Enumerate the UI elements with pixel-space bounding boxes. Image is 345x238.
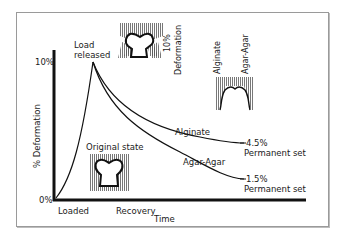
agar-agar-permanent-value: 1.5%	[246, 174, 268, 184]
y-tick-0: 0%	[39, 195, 53, 205]
agar-agar-curve-label: Agar-Agar	[183, 157, 225, 167]
y-tick-10: 10%	[35, 57, 54, 67]
deformed-tooth-impression-icon	[118, 23, 163, 58]
agar-agar-permanent-label: Permanent set	[244, 184, 306, 194]
x-phase-recovery: Recovery	[116, 206, 155, 216]
x-phase-loaded: Loaded	[58, 206, 89, 216]
alginate-permanent-value: 4.5%	[246, 138, 268, 148]
deformation-pct-label: 10%	[163, 34, 173, 52]
alginate-curve-label: Alginate	[175, 127, 210, 137]
y-axis-label: % Deformation	[32, 104, 42, 168]
load-released-line1: Load	[74, 40, 94, 50]
recovered-tooth-impression-icon	[216, 77, 254, 110]
alginate-vertical-label: Alginate	[213, 41, 223, 74]
agar-agar-vertical-label: Agar-Agar	[241, 34, 251, 74]
load-released-line2: released	[74, 50, 110, 60]
x-axis-label: Time	[154, 214, 175, 224]
original-tooth-impression-icon	[89, 154, 129, 191]
alginate-permanent-label: Permanent set	[244, 148, 306, 158]
loading-curve	[56, 62, 93, 198]
original-state-label: Original state	[86, 142, 144, 152]
deformation-word-label: Deformation	[174, 25, 184, 75]
